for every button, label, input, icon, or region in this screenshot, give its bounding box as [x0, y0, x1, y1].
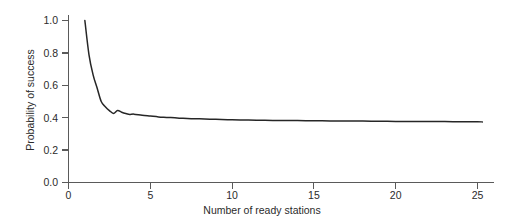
x-axis-title: Number of ready stations [203, 204, 320, 216]
y-tick-label-0.6: 0.6 [43, 79, 58, 91]
y-tick-label-0.0: 0.0 [43, 176, 58, 188]
chart-page: 1.0 0.8 0.6 0.4 0.2 0.0 0 5 10 15 20 25 … [0, 0, 517, 222]
x-axis-tick-labels: 0 5 10 15 20 25 [66, 189, 484, 201]
series-line-probability-of-success [85, 21, 483, 122]
x-tick-label-20: 20 [390, 189, 402, 201]
y-tick-label-0.8: 0.8 [43, 47, 58, 59]
x-tick-label-5: 5 [147, 189, 153, 201]
x-axis-ticks [69, 183, 478, 190]
x-tick-label-25: 25 [472, 189, 484, 201]
x-tick-label-10: 10 [226, 189, 238, 201]
y-axis-tick-labels: 1.0 0.8 0.6 0.4 0.2 0.0 [43, 14, 58, 188]
y-tick-label-0.2: 0.2 [43, 144, 58, 156]
y-tick-label-1.0: 1.0 [43, 14, 58, 26]
x-tick-label-15: 15 [308, 189, 320, 201]
y-axis-ticks [62, 21, 69, 183]
x-tick-label-0: 0 [66, 189, 72, 201]
probability-of-success-chart: 1.0 0.8 0.6 0.4 0.2 0.0 0 5 10 15 20 25 … [0, 0, 517, 222]
y-axis-title: Probability of success [24, 49, 36, 151]
y-tick-label-0.4: 0.4 [43, 112, 58, 124]
